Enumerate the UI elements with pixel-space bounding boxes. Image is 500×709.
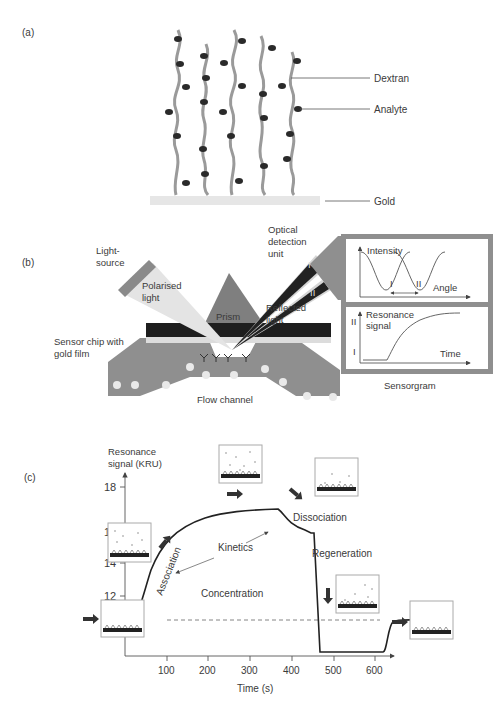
kinetics-arrow-left bbox=[176, 558, 214, 573]
min-I-label: I bbox=[390, 278, 393, 289]
panel-a: (a) Dextran bbox=[22, 27, 409, 207]
beam-I-label: I bbox=[308, 259, 311, 270]
flow-arrow-dissociation bbox=[287, 485, 306, 503]
gold-layer bbox=[150, 196, 320, 205]
panel-b: (b) bbox=[22, 224, 493, 405]
regeneration-label: Regeneration bbox=[312, 548, 372, 559]
state-box-association bbox=[108, 523, 151, 562]
x-axis-title: Time (s) bbox=[237, 683, 273, 694]
level-II-label: II bbox=[351, 316, 356, 327]
polarised-light-label-2: light bbox=[142, 292, 160, 303]
flow-arrow-plateau bbox=[227, 489, 243, 499]
analyte-label: Analyte bbox=[374, 104, 408, 115]
optical-unit-label-1: Optical bbox=[268, 224, 298, 235]
level-I-label: I bbox=[353, 346, 356, 357]
panel-a-leaders bbox=[291, 78, 370, 201]
resonance-axis-label-1: Resonance bbox=[366, 309, 414, 320]
svg-text:100: 100 bbox=[158, 665, 175, 676]
prism-label: Prism bbox=[216, 311, 240, 322]
x-tick-labels: 100 200 300 400 500 600 bbox=[158, 665, 383, 676]
sensorgram-label: Sensorgram bbox=[384, 380, 436, 391]
dextran-strands bbox=[174, 30, 294, 195]
light-source-label-1: Light- bbox=[96, 245, 120, 256]
state-box-baseline bbox=[101, 600, 144, 637]
gold-film bbox=[146, 337, 331, 343]
y-axis-title-1: Resonance bbox=[108, 446, 156, 457]
state-box-regeneration bbox=[336, 575, 379, 613]
light-source-label-2: source bbox=[96, 257, 125, 268]
spr-figure: (a) Dextran bbox=[0, 0, 500, 709]
dextran-label: Dextran bbox=[374, 73, 409, 84]
flow-arrow-out bbox=[392, 617, 408, 627]
time-axis-label: Time bbox=[440, 348, 461, 359]
flow-channel bbox=[108, 338, 340, 396]
panel-b-label: (b) bbox=[22, 257, 34, 268]
optical-unit-label-2: detection bbox=[268, 236, 307, 247]
min-II-label: II bbox=[416, 278, 421, 289]
panel-c: (c) Resonance signal (KRU) 18 16 14 12 bbox=[24, 445, 453, 694]
kinetics-label: Kinetics bbox=[218, 542, 253, 553]
sensor-chip-label-1: Sensor chip with bbox=[54, 336, 124, 347]
flow-channel-label: Flow channel bbox=[197, 394, 253, 405]
dissociation-label: Dissociation bbox=[293, 512, 347, 523]
sensor-chip-label-2: gold film bbox=[54, 348, 89, 359]
svg-text:300: 300 bbox=[241, 665, 258, 676]
association-label: Association bbox=[154, 545, 183, 597]
reflected-light-label-2: light bbox=[266, 314, 284, 325]
panel-a-label: (a) bbox=[22, 27, 34, 38]
angle-axis-label: Angle bbox=[433, 282, 457, 293]
svg-text:500: 500 bbox=[325, 665, 342, 676]
reflected-light-label-1: Reflected bbox=[266, 302, 306, 313]
optical-unit-label-3: unit bbox=[268, 248, 284, 259]
svg-text:200: 200 bbox=[199, 665, 216, 676]
intensity-axis-label: Intensity bbox=[367, 245, 403, 256]
flow-arrow-in bbox=[83, 614, 99, 624]
svg-text:400: 400 bbox=[283, 665, 300, 676]
polarised-light-label-1: Polarised bbox=[142, 280, 182, 291]
x-ticks bbox=[167, 656, 375, 661]
state-box-dissociation bbox=[315, 458, 358, 496]
concentration-label: Concentration bbox=[201, 588, 263, 599]
beam-II-label: II bbox=[310, 287, 315, 298]
resonance-axis-label-2: signal bbox=[366, 320, 391, 331]
gold-label: Gold bbox=[374, 196, 395, 207]
state-box-final bbox=[410, 601, 453, 639]
svg-text:18: 18 bbox=[104, 481, 116, 493]
y-axis-title-2: signal (KRU) bbox=[108, 458, 162, 469]
panel-c-label: (c) bbox=[24, 472, 36, 483]
state-box-plateau bbox=[219, 445, 262, 483]
sensor-chip bbox=[146, 323, 331, 337]
flow-arrow-regeneration bbox=[323, 588, 333, 604]
svg-text:600: 600 bbox=[366, 665, 383, 676]
